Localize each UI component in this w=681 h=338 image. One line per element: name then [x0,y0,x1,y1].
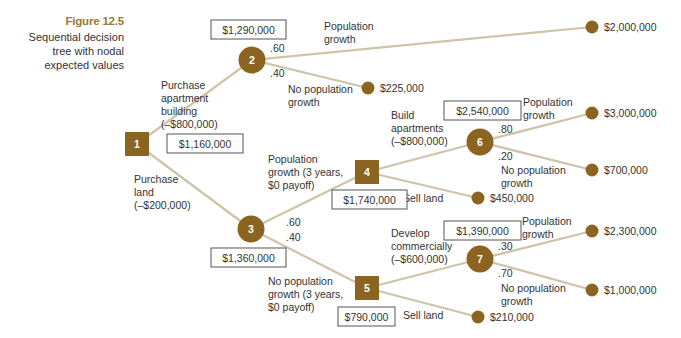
probability-label: .20 [498,150,513,162]
branch-label-build-apartments: Build apartments (–$800,000) [391,109,448,147]
branch-label-population-growth: Population growth [324,20,377,45]
svg-text:6: 6 [477,136,483,148]
terminal-node: $2,300,000 [586,225,657,238]
branch-label-population-growth-3-years: Population growth (3 years, $0 payoff) [268,153,346,191]
svg-text:$1,740,000: $1,740,000 [343,194,396,206]
svg-text:1: 1 [134,138,140,150]
svg-text:4: 4 [364,166,370,178]
expected-value-box-node-5: $790,000 [338,307,395,326]
svg-text:$1,160,000: $1,160,000 [179,138,232,150]
branch-label-sell-land: Sell land [403,309,443,321]
expected-value-box-node-7: $1,390,000 [444,221,521,240]
svg-text:$2,540,000: $2,540,000 [456,105,509,117]
expected-value-box-node-6: $2,540,000 [444,101,521,120]
branch-label-sell-land: Sell land [403,192,443,204]
decision-node-1[interactable]: 1 [125,132,149,156]
terminal-node: $210,000 [472,311,534,324]
svg-text:$1,290,000: $1,290,000 [222,24,275,36]
probability-label: .60 [270,42,285,54]
svg-text:$700,000: $700,000 [604,164,648,176]
svg-text:$225,000: $225,000 [380,82,424,94]
probability-label: .40 [270,67,285,79]
svg-text:3: 3 [248,223,254,235]
probability-label: .70 [498,267,513,279]
probability-label: .80 [498,123,513,135]
branch-label-population-growth: Population growth [523,96,576,121]
terminal-node: $450,000 [472,192,534,205]
chance-node-6[interactable]: 6 [467,129,494,156]
branch-label-purchase-apartment: Purchase apartment building (–$800,000) [161,79,218,130]
svg-text:$1,000,000: $1,000,000 [604,284,657,296]
expected-value-box-node-1: $1,160,000 [167,134,243,153]
svg-text:7: 7 [477,253,483,265]
probability-label: .40 [286,231,301,243]
branch-label-no-population-growth: No population growth [288,83,356,108]
svg-text:$2,300,000: $2,300,000 [604,225,657,237]
svg-text:5: 5 [364,282,370,294]
expected-value-box-node-4: $1,740,000 [332,190,407,209]
branch-n2-t1 [252,27,592,60]
svg-text:2: 2 [249,54,255,66]
chance-node-3[interactable]: 3 [238,216,265,243]
probability-label: .60 [286,216,301,228]
expected-value-box-node-3: $1,360,000 [211,248,286,267]
svg-text:$2,000,000: $2,000,000 [604,21,657,33]
terminal-node: $700,000 [586,164,648,177]
decision-node-4[interactable]: 4 [355,160,379,184]
terminal-node: $225,000 [362,82,424,95]
terminal-node: $3,000,000 [586,107,657,120]
svg-text:$210,000: $210,000 [490,311,534,323]
branch-label-no-population-growth: No population growth [501,164,569,189]
svg-text:$450,000: $450,000 [490,192,534,204]
svg-text:$790,000: $790,000 [345,311,389,323]
svg-text:$3,000,000: $3,000,000 [604,107,657,119]
decision-tree: Purchase apartment building (–$800,000) … [0,0,681,338]
terminal-node: $2,000,000 [586,21,657,34]
chance-node-2[interactable]: 2 [239,47,266,74]
chance-node-7[interactable]: 7 [467,246,494,273]
branch-labels: Purchase apartment building (–$800,000) … [134,20,576,321]
decision-node-5[interactable]: 5 [355,276,379,300]
probability-label: .30 [498,240,513,252]
branch-label-no-population-growth-3-years: No population growth (3 years, $0 payoff… [268,275,346,313]
branch-label-no-population-growth: No population growth [501,282,569,307]
terminal-node: $1,000,000 [586,284,657,297]
svg-text:$1,390,000: $1,390,000 [456,225,509,237]
expected-value-box-node-2: $1,290,000 [211,20,286,39]
svg-text:$1,360,000: $1,360,000 [222,252,275,264]
